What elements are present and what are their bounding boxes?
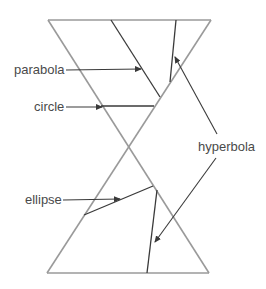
hyperbola-upper-section (170, 20, 176, 82)
conic-sections (84, 20, 176, 273)
hyperbola-upper-arrow (175, 57, 217, 134)
parabola-arrow (66, 69, 141, 70)
circle-label: circle (34, 99, 64, 114)
hyperbola-lower-section (147, 190, 157, 273)
hyperbola-lower-arrow (155, 158, 216, 242)
parabola-section (111, 20, 160, 97)
ellipse-arrow (63, 199, 120, 200)
parabola-label: parabola (14, 62, 65, 77)
double-cone (47, 20, 211, 273)
hyperbola-label: hyperbola (198, 139, 256, 154)
conic-sections-diagram: parabola circle hyperbola ellipse (0, 0, 266, 289)
labels: parabola circle hyperbola ellipse (14, 62, 256, 207)
ellipse-label: ellipse (25, 192, 62, 207)
